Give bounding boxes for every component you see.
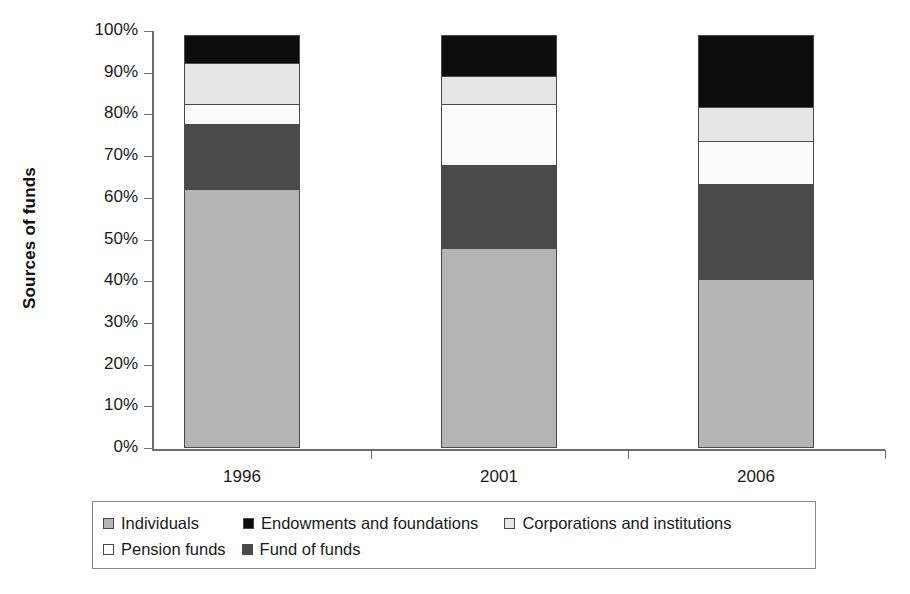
y-axis-tick-label: 40% — [104, 270, 138, 290]
legend-label: Individuals — [121, 514, 199, 533]
legend-item[interactable]: Corporations and institutions — [504, 514, 731, 533]
plot-area: 0%10%20%30%40%50%60%70%80%90%100% 199620… — [152, 31, 885, 450]
y-axis-tick: 60% — [144, 198, 152, 199]
bar-segment[interactable] — [184, 189, 300, 448]
y-axis-tick-mark — [144, 281, 152, 282]
y-axis-tick: 50% — [144, 240, 152, 241]
y-axis-tick-mark — [144, 406, 152, 407]
y-axis-tick: 80% — [144, 114, 152, 115]
y-axis-title: Sources of funds — [20, 128, 40, 348]
y-axis-tick-mark — [144, 240, 152, 241]
y-axis-tick: 70% — [144, 156, 152, 157]
x-axis-tick-mark — [371, 450, 372, 459]
y-axis-tick-label: 80% — [104, 103, 138, 123]
y-axis-tick-mark — [144, 73, 152, 74]
legend-swatch-icon — [103, 518, 114, 529]
y-axis-tick: 10% — [144, 406, 152, 407]
legend-item[interactable]: Fund of funds — [242, 540, 361, 559]
x-axis-label: 2001 — [419, 467, 579, 487]
bar-segment[interactable] — [441, 35, 557, 77]
y-axis-tick-label: 90% — [104, 62, 138, 82]
bar-segment[interactable] — [441, 165, 557, 248]
legend-swatch-icon — [242, 544, 253, 555]
x-axis-label: 1996 — [162, 467, 322, 487]
y-axis-tick-label: 10% — [104, 395, 138, 415]
bar-segment[interactable] — [441, 76, 557, 105]
legend-item[interactable]: Endowments and foundations — [243, 514, 478, 533]
bar-segment[interactable] — [184, 35, 300, 64]
y-axis-tick-label: 20% — [104, 354, 138, 374]
legend-swatch-icon — [504, 518, 515, 529]
bar-segment[interactable] — [698, 35, 814, 108]
legend-item[interactable]: Individuals — [103, 514, 199, 533]
legend-label: Corporations and institutions — [522, 514, 731, 533]
bar-segment[interactable] — [698, 184, 814, 280]
y-axis-tick-mark — [144, 198, 152, 199]
bar-segment[interactable] — [184, 63, 300, 105]
y-axis-tick: 20% — [144, 365, 152, 366]
y-axis-tick: 30% — [144, 323, 152, 324]
y-axis-tick-mark — [144, 365, 152, 366]
x-axis-line — [152, 449, 885, 451]
bar-stack-2006[interactable] — [698, 31, 814, 448]
legend-label: Pension funds — [121, 540, 226, 559]
y-axis-tick-label: 30% — [104, 312, 138, 332]
y-axis-tick-mark — [144, 31, 152, 32]
bar-segment[interactable] — [184, 104, 300, 125]
legend-label: Endowments and foundations — [261, 514, 478, 533]
y-axis-tick-label: 50% — [104, 229, 138, 249]
bar-segment[interactable] — [698, 279, 814, 448]
y-axis-tick: 40% — [144, 281, 152, 282]
bar-segment[interactable] — [698, 107, 814, 142]
bar-stack-1996[interactable] — [184, 31, 300, 448]
x-axis-tick-mark — [885, 450, 886, 459]
y-axis-tick-mark — [144, 114, 152, 115]
legend-swatch-icon — [243, 518, 254, 529]
bar-segment[interactable] — [698, 141, 814, 185]
bar-segment[interactable] — [441, 248, 557, 448]
stacked-bar-chart: Sources of funds 0%10%20%30%40%50%60%70%… — [0, 0, 910, 594]
bar-segment[interactable] — [441, 104, 557, 167]
y-axis-tick-label: 60% — [104, 187, 138, 207]
y-axis-tick-label: 100% — [95, 20, 138, 40]
bar-segment[interactable] — [184, 124, 300, 191]
legend-row: IndividualsEndowments and foundationsCor… — [103, 510, 805, 536]
legend-row: Pension fundsFund of funds — [103, 536, 805, 562]
x-axis-label: 2006 — [676, 467, 836, 487]
y-axis-tick-mark — [144, 156, 152, 157]
legend-swatch-icon — [103, 544, 114, 555]
y-axis-tick-label: 0% — [113, 437, 138, 457]
legend-label: Fund of funds — [260, 540, 361, 559]
y-axis-tick-mark — [144, 323, 152, 324]
y-axis-tick: 0% — [144, 448, 152, 449]
y-axis-line — [152, 31, 154, 450]
chart-legend: IndividualsEndowments and foundationsCor… — [92, 501, 816, 569]
x-axis-tick-mark — [628, 450, 629, 459]
legend-item[interactable]: Pension funds — [103, 540, 226, 559]
y-axis-tick-mark — [144, 448, 152, 449]
y-axis-tick-label: 70% — [104, 145, 138, 165]
bar-stack-2001[interactable] — [441, 31, 557, 448]
y-axis-tick: 90% — [144, 73, 152, 74]
y-axis-tick: 100% — [144, 31, 152, 32]
